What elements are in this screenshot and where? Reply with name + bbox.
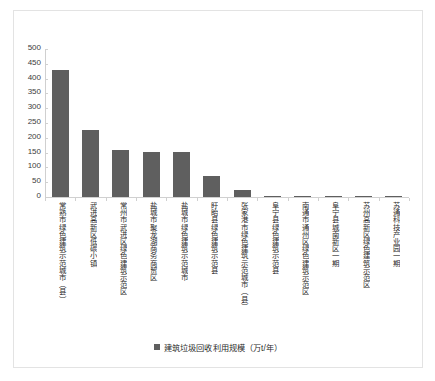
bar	[143, 152, 160, 197]
bar	[82, 130, 99, 197]
x-axis-category-label: 盐城市绿色建筑示范城市	[175, 201, 188, 319]
bar	[325, 196, 342, 197]
bar	[355, 196, 372, 197]
x-axis-category-label: 苏通科技产业园一期	[387, 201, 400, 319]
x-axis-category-label: 张家港市绿色建筑示范城市（县）	[236, 201, 249, 319]
x-axis-category-label: 武进高新区低碳小镇	[84, 201, 97, 319]
x-axis-tick-mark	[409, 198, 410, 201]
bar	[264, 196, 281, 197]
bar	[173, 152, 190, 197]
category-labels: 常熟市绿色建筑示范城市（县）武进高新区低碳小镇常州市武进区绿色建筑示范区盐城市聚…	[45, 201, 409, 321]
x-axis-category-label: 阜宁县绿色建筑示范县	[266, 201, 279, 319]
bar	[112, 150, 129, 197]
bar	[234, 190, 251, 197]
bars-layer	[45, 49, 409, 197]
x-axis-category-label: 常州市武进区绿色建筑示范区	[114, 201, 127, 319]
x-axis-category-label: 苏州高新区绿色建筑示范区	[357, 201, 370, 319]
x-axis-category-label: 常熟市绿色建筑示范城市（县）	[54, 201, 67, 319]
legend-label: 建筑垃圾回收利用规模（万t/年）	[164, 341, 282, 353]
x-axis-category-label: 阜宁县城南新区一期	[327, 201, 340, 319]
bar	[385, 196, 402, 197]
x-axis-category-label: 南通市通州区绿色建筑示范区	[296, 201, 309, 319]
bar	[52, 70, 69, 197]
bar	[203, 176, 220, 197]
legend-swatch-icon	[154, 344, 160, 350]
x-axis-category-label: 盱眙县绿色建筑示范县	[205, 201, 218, 319]
chart-frame: 500450400350300250200150100500 常熟市绿色建筑示范…	[13, 10, 423, 368]
chart-legend: 建筑垃圾回收利用规模（万t/年）	[14, 341, 422, 353]
x-axis-category-label: 盐城市聚龙湖商务商贸区	[145, 201, 158, 319]
bar	[294, 196, 311, 197]
